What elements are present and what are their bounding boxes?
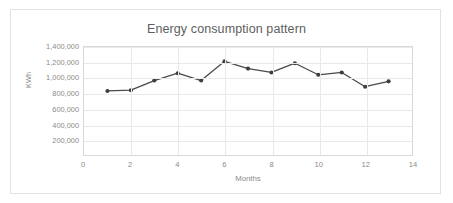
x-axis-tick-label: 10 [314,160,322,169]
y-axis-tick-labels: 200,000400,000600,000800,0001,000,0001,2… [11,46,79,156]
x-axis-tick-label: 12 [362,160,370,169]
x-axis-tick-label: 14 [409,160,417,169]
x-axis-title: Months [83,174,413,183]
data-point-marker [105,89,109,93]
x-axis-tick-label: 2 [128,160,132,169]
gridline-vertical [320,47,321,155]
x-axis-tick-label: 0 [81,160,85,169]
gridline-horizontal [84,78,412,79]
x-axis-tick-label: 8 [269,160,273,169]
gridline-horizontal [84,94,412,95]
gridline-horizontal [84,63,412,64]
gridline-horizontal [84,141,412,142]
chart-container: Energy consumption pattern 200,000400,00… [10,9,441,194]
x-axis-tick-label: 6 [222,160,226,169]
gridline-horizontal [84,110,412,111]
data-point-marker [340,70,344,74]
y-axis-tick-label: 600,000 [15,104,79,113]
gridline-vertical [225,47,226,155]
y-axis-title: KWh [24,72,33,88]
gridline-vertical [178,47,179,155]
y-axis-tick-label: 1,400,000 [15,42,79,51]
x-axis-tick-label: 4 [175,160,179,169]
gridline-horizontal [84,47,412,48]
y-axis-tick-label: 1,200,000 [15,57,79,66]
y-axis-tick-label: 800,000 [15,89,79,98]
data-point-marker [386,79,390,83]
y-axis-tick-label: 200,000 [15,136,79,145]
x-axis-tick-labels: 02468101214 [83,160,413,174]
data-point-marker [246,67,250,71]
plot-area [83,46,413,156]
series-line [107,61,388,91]
gridline-vertical [131,47,132,155]
gridline-vertical [273,47,274,155]
gridline-horizontal [84,126,412,127]
y-axis-tick-label: 400,000 [15,120,79,129]
chart-title: Energy consumption pattern [11,22,442,36]
gridline-vertical [367,47,368,155]
